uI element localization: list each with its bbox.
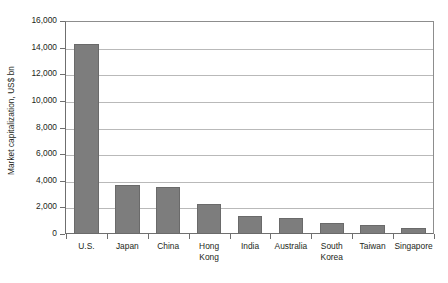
x-axis-tick-mark xyxy=(434,234,435,239)
x-axis-labels: U.S.JapanChinaHong KongIndiaAustraliaSou… xyxy=(66,241,434,283)
y-axis-tick: 8,000 xyxy=(0,128,65,129)
x-axis-label: China xyxy=(148,241,189,252)
bar-chart-figure: Market capitalization, US$ bn 02,0004,00… xyxy=(0,0,448,283)
y-axis-tick: 4,000 xyxy=(0,181,65,182)
x-axis-label: Singapore xyxy=(393,241,434,252)
x-axis-label: Taiwan xyxy=(352,241,393,252)
bar-south-korea xyxy=(320,223,345,234)
y-axis-tick: 14,000 xyxy=(0,48,65,49)
bar-hong-kong xyxy=(197,204,222,234)
bar-taiwan xyxy=(360,225,385,234)
y-axis-tick-label: 2,000 xyxy=(36,201,57,212)
bar-slot xyxy=(148,21,189,234)
bars-layer xyxy=(66,21,434,234)
x-axis-label: Australia xyxy=(270,241,311,252)
bar-slot xyxy=(393,21,434,234)
x-axis-tick-mark xyxy=(66,234,67,239)
y-axis-tick-label: 10,000 xyxy=(31,95,57,106)
y-axis-tick-label: 16,000 xyxy=(31,15,57,26)
bar-u-s xyxy=(74,44,99,234)
x-axis-tick-mark xyxy=(148,234,149,239)
bar-slot xyxy=(352,21,393,234)
bar-slot xyxy=(270,21,311,234)
y-axis-tick: 0 xyxy=(0,234,65,235)
y-axis-tick-label: 12,000 xyxy=(31,68,57,79)
y-axis-tick-label: 0 xyxy=(52,228,57,239)
x-axis-label: India xyxy=(230,241,271,252)
y-axis-tick: 2,000 xyxy=(0,207,65,208)
x-axis-tick-mark xyxy=(107,234,108,239)
x-axis-tick-mark xyxy=(189,234,190,239)
x-axis-tick-mark xyxy=(393,234,394,239)
x-axis-label: South Korea xyxy=(311,241,352,262)
x-axis-label: U.S. xyxy=(66,241,107,252)
x-axis-tick-mark xyxy=(352,234,353,239)
bar-japan xyxy=(115,185,140,234)
bar-slot xyxy=(230,21,271,234)
x-axis-label: Hong Kong xyxy=(189,241,230,262)
bar-china xyxy=(156,187,181,234)
y-axis-tick-label: 6,000 xyxy=(36,148,57,159)
x-axis-label: Japan xyxy=(107,241,148,252)
x-axis-tick-mark xyxy=(311,234,312,239)
y-axis-tick: 6,000 xyxy=(0,154,65,155)
y-axis-tick-label: 4,000 xyxy=(36,175,57,186)
x-axis-ticks xyxy=(66,234,434,240)
x-axis-tick-mark xyxy=(230,234,231,239)
bar-australia xyxy=(279,218,304,234)
y-axis-tick: 10,000 xyxy=(0,101,65,102)
y-axis-tick-mark xyxy=(60,234,65,235)
bar-slot xyxy=(189,21,230,234)
bar-slot xyxy=(107,21,148,234)
y-axis-tick: 16,000 xyxy=(0,21,65,22)
bar-india xyxy=(238,216,263,234)
y-axis-tick-label: 14,000 xyxy=(31,42,57,53)
y-axis-tick-label: 8,000 xyxy=(36,122,57,133)
bar-slot xyxy=(66,21,107,234)
bar-slot xyxy=(311,21,352,234)
y-axis-tick: 12,000 xyxy=(0,74,65,75)
y-axis-ticks: 02,0004,0006,0008,00010,00012,00014,0001… xyxy=(0,0,65,283)
x-axis-tick-mark xyxy=(270,234,271,239)
